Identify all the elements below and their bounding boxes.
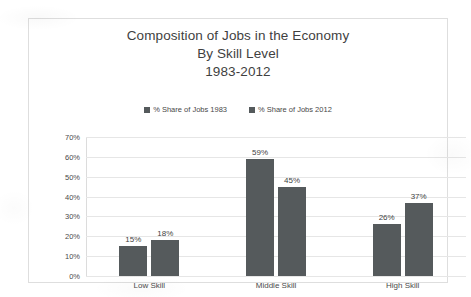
bar-wrap-high-skill-1983: 26% <box>373 137 401 276</box>
y-tick-label-40: 40% <box>65 192 80 201</box>
bar-wrap-low-skill-1983: 15% <box>119 137 147 276</box>
bar-value-label-high-skill-2012: 37% <box>411 192 427 201</box>
bar-middle-skill-1983[interactable]: 59% <box>246 159 274 276</box>
legend-item-2012[interactable]: % Share of Jobs 2012 <box>249 105 332 114</box>
bar-wrap-low-skill-2012: 18% <box>151 137 179 276</box>
bar-wrap-middle-skill-2012: 45% <box>278 137 306 276</box>
y-tick-label-0: 0% <box>69 272 80 281</box>
y-tick-label-30: 30% <box>65 212 80 221</box>
bar-middle-skill-2012[interactable]: 45% <box>278 187 306 276</box>
legend-label-2012: % Share of Jobs 2012 <box>258 105 332 114</box>
chart-container: Composition of Jobs in the Economy By Sk… <box>28 18 448 283</box>
y-tick-label-20: 20% <box>65 232 80 241</box>
y-tick-label-60: 60% <box>65 152 80 161</box>
chart-title-line-2: By Skill Level <box>29 45 447 63</box>
bar-group-high-skill: 26% 37% High Skill <box>339 137 466 276</box>
legend-item-1983[interactable]: % Share of Jobs 1983 <box>144 105 227 114</box>
chart-legend: % Share of Jobs 1983 % Share of Jobs 201… <box>29 105 447 114</box>
legend-label-1983: % Share of Jobs 1983 <box>153 105 227 114</box>
chart-title: Composition of Jobs in the Economy By Sk… <box>29 27 447 81</box>
bar-group-middle-skill: 59% 45% Middle Skill <box>213 137 340 276</box>
bar-wrap-middle-skill-1983: 59% <box>246 137 274 276</box>
bar-low-skill-2012[interactable]: 18% <box>151 240 179 276</box>
bar-low-skill-1983[interactable]: 15% <box>119 246 147 276</box>
chart-title-line-3: 1983-2012 <box>29 63 447 81</box>
bar-high-skill-2012[interactable]: 37% <box>405 203 433 276</box>
y-tick-label-50: 50% <box>65 172 80 181</box>
bar-value-label-middle-skill-1983: 59% <box>252 148 268 157</box>
gridline-0: 0% <box>86 276 466 277</box>
bar-groups: 15% 18% Low Skill 59% <box>86 137 466 276</box>
x-axis-label-high-skill: High Skill <box>386 281 419 290</box>
x-axis-label-middle-skill: Middle Skill <box>256 281 296 290</box>
plot-area: 70% 60% 50% 40% 30% 20% 10% 0% 15% <box>86 137 466 276</box>
legend-swatch-icon-2012 <box>249 107 255 113</box>
bar-value-label-high-skill-1983: 26% <box>379 213 395 222</box>
y-tick-label-70: 70% <box>65 133 80 142</box>
bar-high-skill-1983[interactable]: 26% <box>373 224 401 276</box>
bar-value-label-low-skill-2012: 18% <box>157 229 173 238</box>
bar-value-label-low-skill-1983: 15% <box>125 235 141 244</box>
bar-group-low-skill: 15% 18% Low Skill <box>86 137 213 276</box>
y-tick-label-10: 10% <box>65 252 80 261</box>
bar-wrap-high-skill-2012: 37% <box>405 137 433 276</box>
legend-swatch-icon-1983 <box>144 107 150 113</box>
chart-title-line-1: Composition of Jobs in the Economy <box>29 27 447 45</box>
bar-value-label-middle-skill-2012: 45% <box>284 176 300 185</box>
x-axis-label-low-skill: Low Skill <box>134 281 166 290</box>
